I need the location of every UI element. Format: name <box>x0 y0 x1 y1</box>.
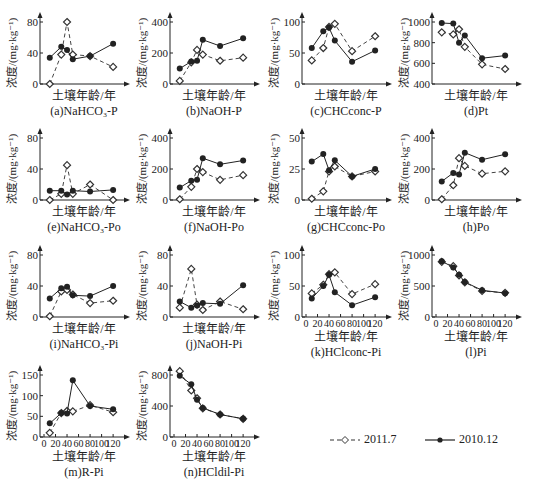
panel-f: 0200400浓度/(mg·kg⁻¹)土壤年龄/年(f)NaOH-Po <box>135 128 260 234</box>
panel-b: 0200400浓度/(mg·kg⁻¹)土壤年龄/年(b)NaOH-P <box>135 12 260 118</box>
data-point-circle <box>70 377 76 383</box>
x-tick-label: 120 <box>368 318 383 329</box>
data-point-circle <box>349 173 355 179</box>
x-tick-label: 40 <box>62 438 72 449</box>
legend-label-2011: 2011.7 <box>364 432 397 447</box>
x-axis-label: 土壤年龄/年 <box>182 88 245 103</box>
y-axis-label: 浓度/(mg·kg⁻¹) <box>397 134 411 205</box>
data-point-circle <box>326 25 332 31</box>
data-point-circle <box>58 285 64 291</box>
data-point-circle <box>372 166 378 172</box>
x-tick-label: 60 <box>74 438 84 449</box>
y-axis-label: 浓度/(mg·kg⁻¹) <box>135 251 149 322</box>
panel-e: 04080浓度/(mg·kg⁻¹)土壤年龄/年(e)NaHCO₃-Po <box>5 128 130 234</box>
data-point-circle <box>372 294 378 300</box>
data-point-circle <box>332 289 338 295</box>
data-point-diamond <box>87 181 94 188</box>
data-point-circle <box>70 292 76 298</box>
data-point-circle <box>240 416 246 422</box>
solid-circle-icon <box>425 435 455 445</box>
data-point-circle <box>456 40 462 46</box>
y-tick-label: 200 <box>414 163 431 175</box>
data-point-circle <box>64 47 70 53</box>
data-point-circle <box>479 157 485 163</box>
panel-title: (f)NaOH-Po <box>184 220 244 234</box>
data-point-diamond <box>217 176 224 183</box>
data-point-circle <box>200 300 206 306</box>
data-point-diamond <box>349 48 356 55</box>
y-tick-label: 40 <box>157 280 169 292</box>
x-tick-label: 60 <box>336 318 346 329</box>
data-point-circle <box>309 159 315 165</box>
y-tick-label: 0 <box>163 194 169 206</box>
y-axis-label: 浓度/(mg·kg⁻¹) <box>267 134 281 205</box>
panel-title: (c)CHCconc-P <box>310 104 382 118</box>
y-tick-label: 80 <box>27 132 39 144</box>
data-point-circle <box>217 43 223 49</box>
data-point-circle <box>439 20 445 26</box>
data-point-diamond <box>46 81 53 88</box>
data-point-circle <box>194 397 200 403</box>
data-point-diamond <box>110 63 117 70</box>
data-point-circle <box>58 44 64 50</box>
data-point-circle <box>320 28 326 34</box>
data-point-circle <box>87 188 93 194</box>
data-point-diamond <box>110 197 117 204</box>
y-tick-label: 500 <box>414 280 431 292</box>
x-axis-label: 土壤年龄/年 <box>444 329 507 344</box>
y-tick-label: 600 <box>414 57 431 69</box>
y-tick-label: 0 <box>163 311 169 323</box>
y-tick-label: 25 <box>289 163 301 175</box>
panel-i: 04080浓度/(mg·kg⁻¹)土壤年龄/年(i)NaHCO₃-Pi <box>5 245 130 351</box>
series-line-2011.7 <box>442 158 505 199</box>
data-point-circle <box>217 161 223 167</box>
data-point-diamond <box>46 313 53 320</box>
data-point-circle <box>70 188 76 194</box>
data-point-circle <box>177 66 183 72</box>
data-point-circle <box>58 188 64 194</box>
data-point-circle <box>47 295 53 301</box>
data-point-diamond <box>502 168 509 175</box>
data-point-diamond <box>46 429 53 436</box>
data-point-diamond <box>69 408 76 415</box>
data-point-circle <box>177 373 183 379</box>
data-point-circle <box>326 167 332 173</box>
data-point-diamond <box>320 45 327 52</box>
data-point-diamond <box>456 155 463 162</box>
data-point-circle <box>240 157 246 163</box>
data-point-diamond <box>87 300 94 307</box>
data-point-circle <box>349 302 355 308</box>
data-point-diamond <box>438 29 445 36</box>
x-axis-label: 土壤年龄/年 <box>52 449 115 464</box>
y-tick-label: 400 <box>414 132 431 144</box>
panel-a: 04080浓度/(mg·kg⁻¹)土壤年龄/年(a)NaHCO₃-P <box>5 12 130 118</box>
panel-c: 050100浓度/(mg·kg⁻¹)土壤年龄/年(c)CHCconc-P <box>267 12 392 118</box>
data-point-circle <box>450 21 456 27</box>
data-point-circle <box>309 45 315 51</box>
data-point-circle <box>87 293 93 299</box>
y-tick-label: 100 <box>22 390 39 402</box>
x-axis-label: 土壤年龄/年 <box>52 88 115 103</box>
x-tick-label: 120 <box>236 438 251 449</box>
data-point-circle <box>479 287 485 293</box>
x-tick-label: 40 <box>454 318 464 329</box>
data-point-circle <box>502 290 508 296</box>
y-tick-label: 400 <box>152 132 169 144</box>
y-axis-label: 浓度/(mg·kg⁻¹) <box>135 371 149 442</box>
y-tick-label: 100 <box>284 249 301 261</box>
panel-m: 050100150020406080100120浓度/(mg·kg⁻¹)土壤年龄… <box>5 365 130 479</box>
data-point-circle <box>177 299 183 305</box>
y-axis-label: 浓度/(mg·kg⁻¹) <box>5 18 19 89</box>
data-point-circle <box>177 185 183 191</box>
series-line-2010.12 <box>312 275 375 305</box>
x-tick-label: 120 <box>498 318 513 329</box>
y-tick-label: 80 <box>27 16 39 28</box>
data-point-circle <box>320 151 326 157</box>
data-point-circle <box>188 381 194 387</box>
y-tick-label: 0 <box>33 431 39 443</box>
data-point-diamond <box>64 19 71 26</box>
data-point-circle <box>456 171 462 177</box>
data-point-diamond <box>502 66 509 73</box>
panel-title: (g)CHCconc-Po <box>307 220 385 234</box>
y-axis-label: 浓度/(mg·kg⁻¹) <box>135 18 149 89</box>
